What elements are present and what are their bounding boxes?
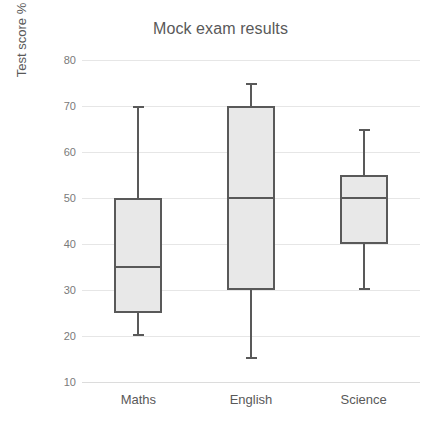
y-axis-tick-label: 20 xyxy=(46,330,76,342)
plot-area xyxy=(82,60,420,382)
x-axis-label-english: English xyxy=(230,392,273,407)
lower-whisker-cap xyxy=(359,288,370,290)
y-axis-tick-label: 10 xyxy=(46,376,76,388)
upper-whisker-line xyxy=(137,106,139,198)
y-axis-tick-label: 60 xyxy=(46,146,76,158)
box-plot-maths[interactable] xyxy=(114,60,162,382)
upper-whisker-cap xyxy=(133,106,144,108)
upper-whisker-cap xyxy=(359,129,370,131)
x-axis-label-science: Science xyxy=(341,392,387,407)
box-iqr-rect[interactable] xyxy=(340,175,388,244)
median-line xyxy=(114,266,162,268)
chart-title: Mock exam results xyxy=(0,20,441,38)
gridline xyxy=(82,382,420,383)
upper-whisker-cap xyxy=(246,83,257,85)
median-line xyxy=(227,197,275,199)
y-axis-tick-label: 30 xyxy=(46,284,76,296)
lower-whisker-line xyxy=(363,244,365,290)
x-axis-category-labels: MathsEnglishScience xyxy=(82,392,420,416)
median-line xyxy=(340,197,388,199)
y-axis-tick-label: 40 xyxy=(46,238,76,250)
lower-whisker-line xyxy=(250,290,252,359)
upper-whisker-line xyxy=(250,83,252,106)
y-axis-tick-label: 50 xyxy=(46,192,76,204)
y-axis-title-text: Test score % xyxy=(14,0,29,135)
lower-whisker-line xyxy=(137,313,139,336)
upper-whisker-line xyxy=(363,129,365,175)
y-axis-tick-label: 70 xyxy=(46,100,76,112)
box-iqr-rect[interactable] xyxy=(114,198,162,313)
lower-whisker-cap xyxy=(246,357,257,359)
box-plot-chart: Mock exam results Test score % 102030405… xyxy=(0,0,441,436)
box-plot-science[interactable] xyxy=(340,60,388,382)
box-plot-english[interactable] xyxy=(227,60,275,382)
lower-whisker-cap xyxy=(133,334,144,336)
y-axis-tick-label: 80 xyxy=(46,54,76,66)
y-axis-title: Test score % xyxy=(14,0,29,135)
y-axis-tick-labels: 1020304050607080 xyxy=(44,60,76,382)
x-axis-label-maths: Maths xyxy=(121,392,156,407)
